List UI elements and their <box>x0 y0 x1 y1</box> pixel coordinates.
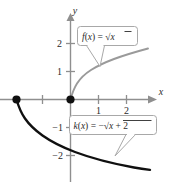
graph-figure: 1 2 2 1 −1 −2 x y f(x) = √x <box>0 0 169 183</box>
callout-k: k(x) = −√x + 2 <box>70 116 157 157</box>
y-tick-label-neg1: −1 <box>52 122 63 133</box>
callout-f-arg: x <box>110 32 116 42</box>
x-tick-label-2: 2 <box>124 105 129 116</box>
x-axis-label: x <box>158 86 164 97</box>
callout-k-plus: + 2 <box>113 121 128 131</box>
y-tick-label-1: 1 <box>57 66 62 77</box>
y-tick-label-neg2: −2 <box>52 150 63 161</box>
x-tick-label-1: 1 <box>96 105 101 116</box>
endpoint-dot-neg2 <box>12 95 20 103</box>
curve-f-sqrt-x <box>71 49 149 100</box>
callout-f-eq: ) = <box>92 32 105 43</box>
callout-k-eq: ) = − <box>85 121 104 132</box>
y-tick-label-2: 2 <box>57 38 62 49</box>
callout-f: f(x) = √x <box>78 27 138 67</box>
x-axis-arrow-icon <box>148 96 157 104</box>
callout-k-text: k(x) = −√x + 2 <box>74 121 129 132</box>
endpoint-dot-origin <box>66 95 74 103</box>
callout-f-text: f(x) = √x <box>82 32 116 43</box>
coordinate-plane-svg: 1 2 2 1 −1 −2 x y f(x) = √x <box>0 0 169 183</box>
y-axis-label: y <box>72 5 78 16</box>
callout-k-leader-line <box>115 135 136 157</box>
